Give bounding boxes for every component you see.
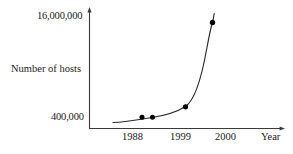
data-point — [183, 104, 188, 109]
growth-curve — [113, 14, 214, 123]
data-point-markers — [140, 20, 216, 120]
x-axis-arrowhead — [280, 126, 285, 130]
data-point — [150, 115, 155, 120]
x-axis-tick-label-2000: 2000 — [215, 132, 236, 143]
x-axis-tick-label-1999: 1999 — [170, 132, 191, 143]
data-point — [210, 20, 215, 25]
chart-plot-area — [0, 0, 293, 154]
x-axis — [89, 126, 285, 130]
y-axis-title: Number of hosts — [11, 64, 81, 75]
hosts-growth-chart: 16,000,000 400,000 Number of hosts 1988 … — [0, 0, 293, 154]
y-axis — [87, 7, 91, 129]
x-axis-tick-label-1988: 1988 — [122, 132, 143, 143]
data-point — [140, 115, 145, 120]
y-axis-tick-label-bottom: 400,000 — [51, 112, 84, 123]
y-axis-tick-label-top: 16,000,000 — [37, 11, 82, 22]
y-axis-arrowhead — [87, 7, 91, 12]
x-axis-title: Year — [261, 132, 280, 143]
